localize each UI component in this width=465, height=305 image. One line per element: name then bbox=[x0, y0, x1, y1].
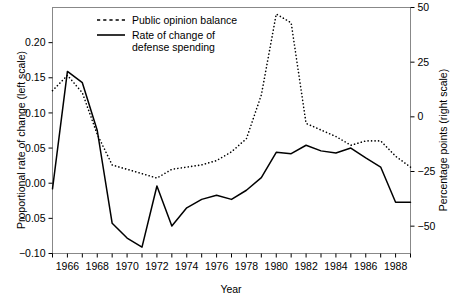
y-tick-label-right: 50 bbox=[418, 1, 430, 13]
y-tick-label-left: 0.05 bbox=[25, 142, 46, 154]
y-tick-label-left: 0.15 bbox=[25, 71, 46, 83]
x-tick-label: 1982 bbox=[294, 260, 318, 272]
series-line-rate-of-change-of-defense-spending bbox=[53, 71, 411, 247]
x-tick-label: 1968 bbox=[86, 260, 110, 272]
y-tick-label-right: −50 bbox=[418, 220, 436, 232]
x-tick-label: 1974 bbox=[175, 260, 199, 272]
x-tick-label: 1976 bbox=[205, 260, 229, 272]
x-tick-label: 1984 bbox=[324, 260, 348, 272]
x-axis-label: Year bbox=[52, 283, 410, 295]
plot-frame bbox=[53, 8, 411, 254]
legend-label-defense-rate-line2: defense spending bbox=[132, 41, 215, 53]
plot-area: 1966196819701972197419761978198019821984… bbox=[0, 0, 465, 305]
x-tick-label: 1986 bbox=[354, 260, 378, 272]
y-tick-label-right: −25 bbox=[418, 165, 436, 177]
chart-figure: Proportional rate of change (left scale)… bbox=[0, 0, 465, 305]
y-tick-label-left: 0.10 bbox=[25, 107, 46, 119]
x-tick-label: 1988 bbox=[384, 260, 408, 272]
x-tick-label: 1966 bbox=[56, 260, 80, 272]
series-line-public-opinion-balance bbox=[53, 14, 411, 178]
y-tick-label-left: 0.00 bbox=[25, 177, 46, 189]
y-axis-label-right: Percentage points (right scale) bbox=[437, 15, 449, 265]
x-tick-label: 1972 bbox=[145, 260, 169, 272]
y-tick-label-right: 0 bbox=[418, 110, 424, 122]
y-axis-label-left: Proportional rate of change (left scale) bbox=[15, 15, 27, 265]
x-tick-label: 1980 bbox=[265, 260, 289, 272]
x-tick-label: 1970 bbox=[115, 260, 139, 272]
legend-label-defense-rate-line1: Rate of change of bbox=[132, 29, 215, 41]
legend-label-public-opinion: Public opinion balance bbox=[132, 14, 237, 26]
y-tick-label-right: 25 bbox=[418, 56, 430, 68]
x-tick-label: 1978 bbox=[235, 260, 259, 272]
y-tick-label-left: 0.20 bbox=[25, 36, 46, 48]
